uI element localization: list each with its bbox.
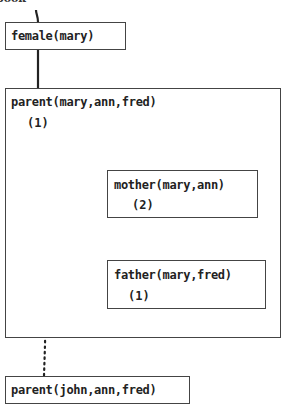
goal-box-father: father(mary,fred) (1) <box>107 260 266 309</box>
goal-label-mother: mother(mary,ann) <box>114 178 225 192</box>
goal-box-mother: mother(mary,ann) (2) <box>107 170 258 218</box>
goal-box-female: female(mary) <box>5 22 126 50</box>
goal-label-parent-next: parent(john,ann,fred) <box>11 383 156 397</box>
goal-label-parent: parent(mary,ann,fred) <box>11 95 156 109</box>
clause-number-mother: (2) <box>132 198 154 212</box>
clause-number-father: (1) <box>128 289 150 303</box>
goal-label-female: female(mary) <box>11 29 94 43</box>
clause-number-parent: (1) <box>27 116 49 130</box>
goal-box-parent-next: parent(john,ann,fred) <box>5 376 190 404</box>
goal-label-father: father(mary,fred) <box>114 268 232 282</box>
